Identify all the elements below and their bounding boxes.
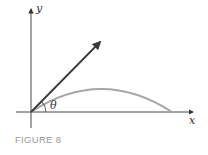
x-axis-label: x — [189, 114, 196, 127]
figure-caption: FIGURE 8 — [15, 134, 61, 145]
projectile-diagram: θ y x — [0, 0, 208, 155]
y-axis-label: y — [35, 2, 43, 15]
angle-label: θ — [50, 99, 57, 112]
